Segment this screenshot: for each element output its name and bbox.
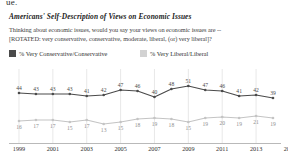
data-label-conservative: 39 (270, 90, 276, 96)
data-point-conservative (221, 90, 224, 93)
x-axis-label: 2015 (284, 145, 288, 152)
chart-subtitle-line2: [ROTATED: very conservative, conservativ… (9, 35, 212, 42)
data-point-liberal (85, 119, 88, 122)
data-label-liberal: 19 (152, 121, 158, 127)
chart-legend: % Very Conservative/Conservative % Very … (9, 50, 279, 62)
data-label-liberal: 15 (118, 125, 124, 131)
series-line-conservative (19, 86, 273, 98)
x-axis-label: 2005 (114, 145, 126, 152)
x-axis-label: 2001 (47, 145, 59, 152)
data-label-liberal: 19 (202, 121, 208, 127)
x-axis-label: 2007 (148, 145, 160, 152)
x-axis-tick-labels: 199920012003200520072009201120132015 (9, 145, 281, 159)
x-axis-label: 2009 (182, 145, 194, 152)
data-point-conservative (69, 93, 72, 96)
data-label-conservative: 42 (253, 87, 259, 93)
data-label-conservative: 47 (202, 82, 208, 88)
data-label-conservative: 46 (135, 83, 141, 89)
data-label-liberal: 13 (101, 127, 107, 133)
x-axis-label: 2003 (81, 145, 93, 152)
axis-baseline (9, 143, 281, 144)
data-label-conservative: 41 (84, 88, 90, 94)
data-point-liberal (153, 117, 156, 120)
series-line-liberal (19, 116, 273, 124)
data-point-liberal (204, 117, 207, 120)
data-label-conservative: 40 (152, 89, 158, 95)
chart-title: Americans' Self-Description of Views on … (9, 12, 191, 21)
data-label-conservative: 48 (169, 81, 175, 87)
data-point-liberal (187, 121, 190, 124)
data-point-conservative (204, 89, 207, 92)
data-label-liberal: 15 (186, 125, 192, 131)
data-label-liberal: 17 (50, 123, 56, 129)
data-label-conservative: 43 (67, 86, 73, 92)
data-label-conservative: 43 (50, 86, 56, 92)
data-point-conservative (187, 85, 190, 88)
legend-label-conservative: % Very Conservative/Conservative (19, 50, 107, 57)
data-point-liberal (102, 123, 105, 126)
chart-page: ue. Americans' Self-Description of Views… (0, 0, 288, 165)
data-label-liberal: 17 (84, 123, 90, 129)
data-label-liberal: 19 (270, 121, 276, 127)
data-point-liberal (221, 116, 224, 119)
data-label-liberal: 15 (67, 125, 73, 131)
data-point-conservative (18, 92, 21, 95)
x-axis-label: 2013 (250, 145, 262, 152)
data-point-conservative (35, 93, 38, 96)
data-label-conservative: 43 (33, 86, 39, 92)
data-point-conservative (52, 93, 55, 96)
clipped-text-fragment: ue. (6, 0, 17, 7)
legend-item-liberal[interactable]: % Very Liberal/Liberal (140, 50, 208, 57)
data-point-liberal (136, 118, 139, 121)
data-label-liberal: 18 (169, 122, 175, 128)
chart-subtitle-line1: Thinking about economic issues, would yo… (9, 26, 221, 33)
legend-label-liberal: % Very Liberal/Liberal (150, 50, 208, 57)
data-point-liberal (18, 120, 21, 123)
data-point-liberal (170, 118, 173, 121)
data-label-conservative: 42 (101, 87, 107, 93)
data-point-liberal (238, 117, 241, 120)
data-label-liberal: 21 (253, 119, 259, 125)
legend-swatch-icon-liberal (140, 50, 147, 57)
data-point-conservative (102, 94, 105, 97)
data-point-liberal (272, 117, 275, 120)
data-point-liberal (255, 115, 258, 118)
data-label-liberal: 16 (16, 124, 22, 130)
data-label-liberal: 17 (33, 123, 39, 129)
data-label-conservative: 44 (16, 85, 22, 91)
data-label-conservative: 41 (236, 88, 242, 94)
data-point-conservative (85, 95, 88, 98)
data-point-liberal (69, 121, 72, 124)
x-axis-label: 2011 (216, 145, 228, 152)
data-label-conservative: 47 (118, 82, 124, 88)
data-label-conservative: 51 (186, 78, 192, 84)
x-axis-label: 1999 (13, 145, 25, 152)
data-label-liberal: 19 (236, 121, 242, 127)
data-point-conservative (170, 88, 173, 91)
data-point-conservative (136, 90, 139, 93)
data-point-liberal (119, 121, 122, 124)
data-label-liberal: 18 (135, 122, 141, 128)
data-point-conservative (153, 96, 156, 99)
data-label-liberal: 20 (219, 120, 225, 126)
data-point-conservative (119, 89, 122, 92)
legend-swatch-icon-conservative (9, 50, 16, 57)
legend-item-conservative[interactable]: % Very Conservative/Conservative (9, 50, 107, 57)
line-chart-svg: 1617171517131518191815192019211944434343… (9, 63, 281, 143)
plot-area: 1617171517131518191815192019211944434343… (9, 63, 281, 143)
data-point-conservative (238, 95, 241, 98)
data-point-liberal (35, 119, 38, 122)
data-label-conservative: 46 (219, 83, 225, 89)
data-point-conservative (272, 97, 275, 100)
data-point-liberal (52, 119, 55, 122)
data-point-conservative (255, 94, 258, 97)
